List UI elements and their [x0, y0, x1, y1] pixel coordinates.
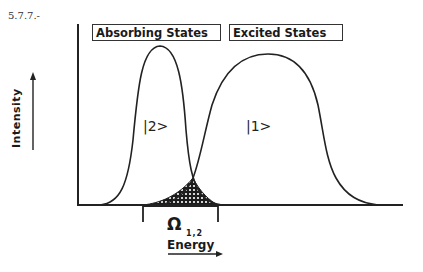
omega-subscript: 1,2 [186, 229, 203, 238]
excited-states-label: Excited States [229, 24, 343, 41]
omega-symbol: Ω [167, 214, 181, 234]
absorbing-states-label: Absorbing States [92, 24, 221, 41]
y-arrow-icon [30, 72, 36, 80]
y-axis-label: Intensity [10, 88, 23, 148]
state-2-label: |2> [143, 118, 168, 134]
x-axis-label: Energy [167, 238, 214, 252]
state-1-label: |1> [246, 118, 271, 134]
overlap-region [143, 178, 218, 205]
x-arrow-icon [216, 251, 223, 257]
